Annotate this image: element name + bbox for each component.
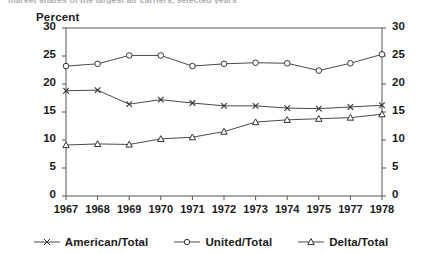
circle-marker	[63, 63, 69, 69]
series-united	[63, 52, 385, 74]
x-tick-label: 1972	[207, 203, 241, 215]
y-tick-label-left: 30	[34, 20, 56, 32]
legend-item-delta[interactable]: Delta/Total	[298, 236, 388, 248]
chart-legend: American/Total United/Total Delta/Total	[0, 232, 422, 252]
y-tick-label-left: 10	[34, 132, 56, 144]
x-tick-label: 1977	[333, 203, 367, 215]
chart-plot-area	[0, 0, 422, 254]
x-tick-label: 1975	[302, 203, 336, 215]
x-tick-label: 1970	[144, 203, 178, 215]
axes-group	[62, 28, 386, 200]
circle-marker	[316, 68, 322, 74]
legend-item-american[interactable]: American/Total	[34, 236, 149, 248]
circle-marker	[158, 53, 164, 59]
y-tick-label-left: 15	[34, 104, 56, 116]
x-tick-label: 1968	[81, 203, 115, 215]
y-tick-label-left: 25	[34, 48, 56, 60]
y-tick-label-right: 20	[392, 76, 414, 88]
x-tick-label: 1971	[175, 203, 209, 215]
series-american	[63, 87, 385, 111]
x-tick-label: 1974	[270, 203, 304, 215]
circle-marker	[284, 60, 290, 66]
circle-marker	[190, 63, 196, 69]
cross-marker-icon	[34, 236, 60, 248]
legend-label-united: United/Total	[205, 236, 272, 248]
circle-marker	[348, 60, 354, 66]
legend-item-united[interactable]: United/Total	[174, 236, 272, 248]
circle-marker	[379, 52, 385, 58]
x-tick-label: 1978	[365, 203, 399, 215]
legend-label-american: American/Total	[65, 236, 149, 248]
circle-marker	[126, 53, 132, 59]
y-tick-label-right: 30	[392, 20, 414, 32]
y-tick-label-right: 15	[392, 104, 414, 116]
x-tick-label: 1967	[49, 203, 83, 215]
y-tick-label-left: 0	[34, 188, 56, 200]
y-tick-label-left: 20	[34, 76, 56, 88]
y-tick-label-right: 25	[392, 48, 414, 60]
y-tick-label-right: 10	[392, 132, 414, 144]
triangle-marker-icon	[298, 236, 324, 248]
legend-label-delta: Delta/Total	[329, 236, 388, 248]
data-series-group	[63, 52, 385, 148]
circle-marker	[221, 61, 227, 67]
circle-marker	[95, 61, 101, 67]
y-tick-label-right: 0	[392, 188, 414, 200]
line-chart: market shares of the largest air carrier…	[0, 0, 422, 254]
y-tick-label-left: 5	[34, 160, 56, 172]
x-tick-label: 1969	[112, 203, 146, 215]
x-tick-label: 1973	[239, 203, 273, 215]
y-tick-label-right: 5	[392, 160, 414, 172]
circle-marker-icon	[174, 236, 200, 248]
series-delta	[63, 111, 385, 148]
circle-marker	[253, 60, 259, 66]
